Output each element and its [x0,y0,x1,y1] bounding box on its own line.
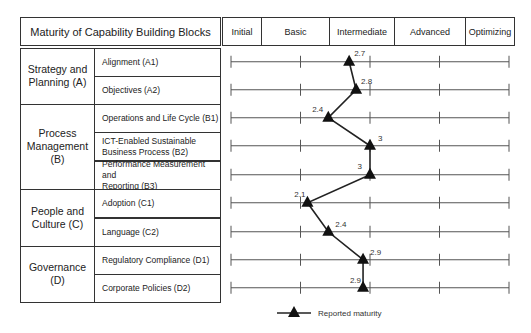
value-label: 2.4 [312,105,324,114]
value-label: 2.1 [294,190,306,199]
value-label: 2.7 [354,49,366,58]
chart-plot-area: 2.72.82.4332.12.42.92.9Reported maturity [0,0,531,333]
triangle-marker-icon [357,253,369,264]
value-label: 2.4 [335,220,347,229]
value-label: 2.9 [370,248,382,257]
legend-triangle-icon [288,306,300,317]
value-label: 3 [378,134,383,143]
value-label: 2.9 [350,276,362,285]
value-label: 3 [358,162,363,171]
triangle-marker-icon [364,139,376,150]
legend-label: Reported maturity [318,309,382,318]
value-label: 2.8 [361,77,373,86]
triangle-marker-icon [364,168,376,179]
